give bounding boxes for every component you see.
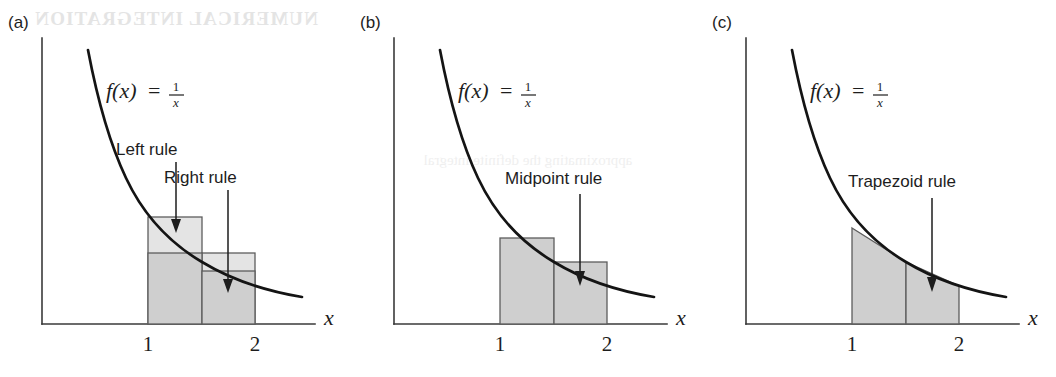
function-frac-denominator: x [172, 95, 179, 110]
x-axis-label: x [1027, 305, 1038, 330]
function-label-eq: = [500, 78, 512, 103]
function-formula: f(x) = 1 x [810, 78, 888, 110]
function-formula: f(x) = 1 x [458, 78, 536, 110]
panel-c-label: (c) [712, 13, 732, 32]
function-frac-denominator: x [876, 95, 883, 110]
figure-riemann-rules: NUMERICAL INTEGRATION Left rule Right ru… [0, 0, 1056, 377]
panel-b-plot: Midpoint rule f(x) = 1 x 1 2 x (b) [352, 0, 704, 377]
midpoint-rule-label: Midpoint rule [505, 169, 602, 188]
tick-label-2: 2 [954, 332, 965, 356]
function-frac-numerator: 1 [877, 79, 884, 94]
panel-a: NUMERICAL INTEGRATION Left rule Right ru… [0, 0, 352, 377]
function-frac-numerator: 1 [525, 79, 532, 94]
midpoint-rule-rect-1 [500, 238, 554, 324]
tick-label-1: 1 [495, 332, 506, 356]
trapezoid-rule-label: Trapezoid rule [848, 172, 956, 191]
panel-b: approximating the definite integral Midp… [352, 0, 704, 377]
function-formula: f(x) = 1 x [106, 78, 184, 110]
function-label-eq: = [852, 78, 864, 103]
right-rule-label: Right rule [164, 168, 237, 187]
tick-label-1: 1 [143, 332, 154, 356]
right-rule-rect-1 [148, 253, 202, 324]
function-label-eq: = [148, 78, 160, 103]
function-label-main: f(x) [458, 78, 489, 103]
x-axis-label: x [675, 305, 686, 330]
panel-b-label: (b) [360, 13, 381, 32]
panel-c-plot: Trapezoid rule f(x) = 1 x 1 2 x (c) [704, 0, 1056, 377]
panel-a-plot: Left rule Right rule f(x) = 1 x 1 2 x (a… [0, 0, 352, 377]
tick-label-2: 2 [250, 332, 261, 356]
x-axis-label: x [323, 305, 334, 330]
tick-label-2: 2 [602, 332, 613, 356]
tick-label-1: 1 [847, 332, 858, 356]
panel-a-label: (a) [8, 13, 29, 32]
function-frac-denominator: x [524, 95, 531, 110]
function-frac-numerator: 1 [173, 79, 180, 94]
panel-c: Trapezoid rule f(x) = 1 x 1 2 x (c) [704, 0, 1056, 377]
function-label-main: f(x) [810, 78, 841, 103]
function-label-main: f(x) [106, 78, 137, 103]
left-rule-label: Left rule [116, 140, 177, 159]
